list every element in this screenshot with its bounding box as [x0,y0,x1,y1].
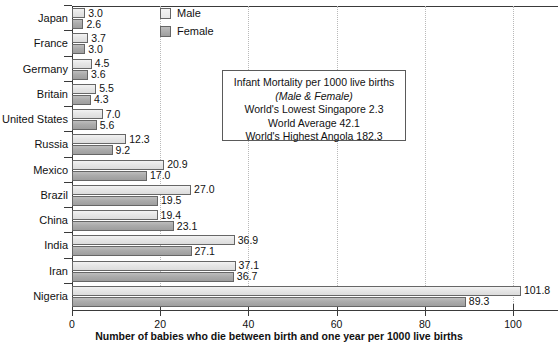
category-tick [64,283,72,284]
bar-value-male-china: 19.4 [161,210,181,221]
x-tick-label-60: 60 [331,318,343,330]
legend-item-female: Female [160,24,214,38]
bar-female-united-states [72,120,97,130]
category-tick [64,157,72,158]
bar-male-germany [72,59,92,69]
bar-value-female-nigeria: 89.3 [469,296,489,307]
bar-value-male-japan: 3.0 [88,8,103,19]
category-tick [64,30,72,31]
legend-swatch-male-icon [160,8,171,19]
bar-value-female-germany: 3.6 [91,69,106,80]
category-label-china: China [0,214,68,226]
category-label-germany: Germany [0,63,68,75]
x-tick-label-40: 40 [243,318,255,330]
info-line-average: World Average 42.1 [223,117,405,131]
gridline-80 [425,6,426,310]
bar-male-brazil [72,185,191,195]
category-label-united-states: United States [0,113,68,125]
bar-female-japan [72,19,83,29]
bar-value-female-britain: 4.3 [94,94,109,105]
x-axis-caption: Number of babies who die between birth a… [0,330,558,342]
bar-male-united-states [72,109,103,119]
gridline-100 [513,6,514,310]
x-tick-label-80: 80 [419,318,431,330]
bar-value-male-india: 36.9 [238,235,258,246]
legend-item-male: Male [160,6,201,20]
bar-value-female-russia: 9.2 [116,145,131,156]
category-label-france: France [0,37,68,49]
category-tick [64,207,72,208]
legend-label-female: Female [177,25,214,37]
info-box: Infant Mortality per 1000 live births (M… [222,70,406,141]
category-label-russia: Russia [0,138,68,150]
category-tick [64,56,72,57]
category-label-iran: Iran [0,265,68,277]
bar-female-germany [72,70,88,80]
category-label-mexico: Mexico [0,164,68,176]
legend-label-male: Male [177,7,201,19]
category-label-nigeria: Nigeria [0,290,68,302]
category-tick [64,81,72,82]
bar-value-male-mexico: 20.9 [167,159,187,170]
x-tick-100 [513,304,514,316]
category-label-britain: Britain [0,88,68,100]
category-tick [64,258,72,259]
category-tick [64,5,72,6]
category-label-india: India [0,239,68,251]
info-line-highest: World's Highest Angola 182.3 [223,130,405,144]
category-tick [64,182,72,183]
bar-female-russia [72,145,113,155]
legend-swatch-female-icon [160,26,171,37]
bar-value-female-united-states: 5.6 [100,120,115,131]
bar-value-female-mexico: 17.0 [150,170,170,181]
bar-male-russia [72,134,126,144]
x-axis-line [72,310,558,311]
category-tick [64,131,72,132]
legend: Male Female [160,4,258,40]
bar-male-india [72,235,235,245]
bar-female-britain [72,95,91,105]
bar-female-nigeria [72,297,466,307]
bar-female-brazil [72,196,158,206]
bar-male-mexico [72,160,164,170]
bar-value-female-iran: 36.7 [237,271,257,282]
bar-value-female-india: 27.1 [195,246,215,257]
bar-male-china [72,210,158,220]
bar-male-japan [72,8,85,18]
x-tick-label-100: 100 [504,318,522,330]
bar-female-france [72,44,85,54]
bar-value-male-brazil: 27.0 [194,184,214,195]
bar-female-china [72,221,174,231]
bar-female-mexico [72,171,147,181]
category-tick [64,106,72,107]
bar-female-india [72,246,192,256]
x-tick-label-20: 20 [154,318,166,330]
category-tick [64,232,72,233]
bar-value-female-france: 3.0 [88,44,103,55]
bar-value-female-china: 23.1 [177,221,197,232]
bar-value-female-japan: 2.6 [86,19,101,30]
category-label-japan: Japan [0,12,68,24]
bar-female-iran [72,272,234,282]
bar-value-female-brazil: 19.5 [161,195,181,206]
info-line-lowest: World's Lowest Singapore 2.3 [223,103,405,117]
bar-male-iran [72,261,236,271]
category-label-brazil: Brazil [0,189,68,201]
bar-value-male-nigeria: 101.8 [524,285,550,296]
gridline-60 [337,6,338,310]
bar-male-nigeria [72,286,521,296]
x-tick-label-0: 0 [69,318,75,330]
bar-male-britain [72,84,96,94]
bar-value-male-united-states: 7.0 [106,109,121,120]
info-line-title: Infant Mortality per 1000 live births [223,76,405,90]
info-line-subtitle: (Male & Female) [223,90,405,104]
bar-value-male-russia: 12.3 [129,134,149,145]
bar-male-france [72,33,88,43]
